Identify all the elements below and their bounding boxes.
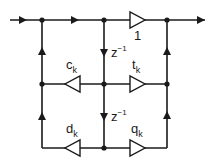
delay-2-label: z−1 xyxy=(111,108,127,124)
left-up-arrow-1-icon xyxy=(38,47,46,55)
right-up-arrow-2-icon xyxy=(163,111,171,119)
gain-dk-amplifier-icon xyxy=(65,140,80,156)
delay-down-arrow-1-icon xyxy=(100,49,108,57)
left-up-arrow-2-icon xyxy=(38,112,46,120)
gain-dk-label: dk xyxy=(66,121,78,139)
gain-qk-label: qk xyxy=(131,121,143,139)
right-up-arrow-1-icon xyxy=(163,47,171,55)
top-arrow-icon xyxy=(71,16,79,24)
delay-1-label: z−1 xyxy=(111,44,127,60)
gain-1-amplifier-icon xyxy=(130,12,145,28)
delay-down-arrow-2-icon xyxy=(100,113,108,121)
gain-tk-amplifier-icon xyxy=(130,76,145,92)
lattice-diagram: 1 z−1 z−1 ck tk dk qk xyxy=(0,0,215,167)
node xyxy=(39,81,44,86)
gain-qk-amplifier-icon xyxy=(130,140,145,156)
gain-tk-label: tk xyxy=(132,57,141,75)
gain-ck-amplifier-icon xyxy=(65,76,80,92)
node xyxy=(101,81,106,86)
gain-ck-label: ck xyxy=(66,57,78,75)
gain-1-label: 1 xyxy=(134,28,141,43)
node xyxy=(164,81,169,86)
node xyxy=(39,17,44,22)
node xyxy=(101,145,106,150)
node xyxy=(164,17,169,22)
output-arrow-icon xyxy=(197,16,205,24)
node xyxy=(101,17,106,22)
input-arrow-icon xyxy=(19,16,27,24)
